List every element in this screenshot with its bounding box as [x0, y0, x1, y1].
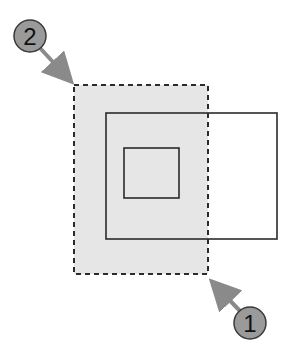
arrow-icon: [217, 287, 240, 311]
callout-1: 1: [234, 307, 266, 339]
callout-label: 2: [23, 23, 36, 50]
arrow-icon: [40, 48, 66, 76]
callout-label: 1: [243, 310, 256, 337]
diagram-canvas: 2 1: [0, 0, 292, 353]
callout-2: 2: [14, 20, 46, 52]
